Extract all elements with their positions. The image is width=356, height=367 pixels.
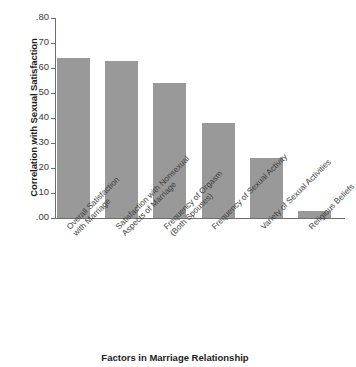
x-axis-title: Factors in Marriage Relationship	[0, 352, 350, 363]
y-tick-label: .70	[36, 36, 49, 47]
y-tick-mark	[51, 168, 55, 169]
y-tick-label: .00	[36, 211, 49, 222]
y-tick-label: .30	[36, 136, 49, 147]
y-tick-label: .20	[36, 161, 49, 172]
y-tick-label: .50	[36, 86, 49, 97]
y-tick-label: .10	[36, 186, 49, 197]
y-tick-label: .80	[36, 11, 49, 22]
y-tick-mark	[51, 193, 55, 194]
bar[interactable]	[57, 58, 90, 218]
y-tick-mark	[51, 218, 55, 219]
y-tick-mark	[51, 43, 55, 44]
y-tick-mark	[51, 143, 55, 144]
y-tick-mark	[51, 93, 55, 94]
x-axis-line	[55, 218, 345, 219]
y-tick-label: .60	[36, 61, 49, 72]
y-tick-mark	[51, 118, 55, 119]
y-tick-mark	[51, 68, 55, 69]
y-tick-mark	[51, 18, 55, 19]
y-tick-label: .40	[36, 111, 49, 122]
